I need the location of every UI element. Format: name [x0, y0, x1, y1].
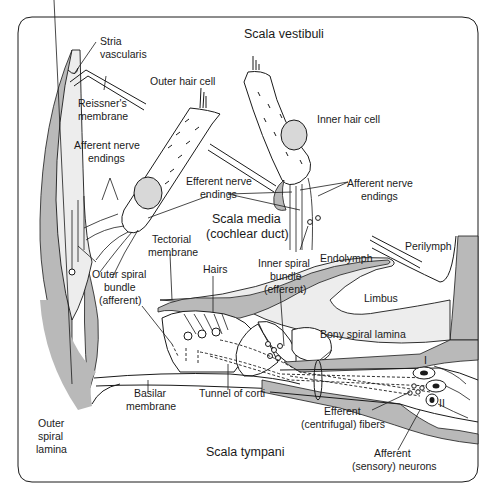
label-scala-media-1: Scala media	[212, 212, 281, 226]
afferent-left-pointer-1	[102, 178, 110, 200]
label-hairs: Hairs	[203, 263, 228, 275]
label-afferent-left-1: Afferent nerve	[74, 139, 140, 151]
basilar-lower-edge	[92, 384, 120, 404]
cochlea-diagram: Scala vestibuli Stria vascularis Reissne…	[0, 0, 491, 495]
label-perilymph: Perilymph	[405, 240, 452, 252]
label-scala-tympani: Scala tympani	[206, 445, 285, 459]
reissner-pointer	[104, 76, 106, 90]
outer-spiral-bundle-dot	[69, 269, 75, 275]
label-bony-spiral-lamina: Bony spiral lamina	[320, 328, 406, 340]
tectorial-pointer	[170, 254, 172, 300]
label-basilar-2: membrane	[126, 400, 176, 412]
label-tectorial-2: membrane	[148, 246, 198, 258]
label-reissner-2: membrane	[78, 110, 128, 122]
label-inner-spiral-2: bundle	[270, 270, 302, 282]
label-scala-vestibuli: Scala vestibuli	[244, 27, 324, 41]
label-afferent-right-1: Afferent nerve	[347, 177, 413, 189]
label-stria-2: vascularis	[100, 48, 147, 60]
label-tunnel-of-corti: Tunnel of corti	[199, 387, 265, 399]
afferent-right-pointers	[300, 182, 348, 196]
label-outer-hair-cell: Outer hair cell	[150, 75, 215, 87]
label-afferent-right-2: endings	[361, 190, 398, 202]
label-efferent-center-2: endings	[200, 188, 237, 200]
label-outer-spiral-1: Outer spiral	[92, 268, 146, 280]
label-outer-spiral-2: bundle	[104, 281, 136, 293]
label-afferent-left-2: endings	[88, 152, 125, 164]
label-neuron-type-1: I	[424, 354, 427, 366]
label-limbus: Limbus	[364, 292, 398, 304]
bony-spiral-lamina-lower	[262, 380, 478, 444]
label-efferent-center-1: Efferent nerve	[186, 175, 252, 187]
label-endolymph: Endolymph	[320, 252, 373, 264]
label-inner-spiral-1: Inner spiral	[258, 257, 310, 269]
afferent-left-pointer-2	[110, 178, 118, 200]
inner-hair-cell-nerve-fibers	[290, 178, 313, 252]
label-outer-spiral-3: (afferent)	[99, 294, 141, 306]
label-scala-media-2: (cochlear duct)	[206, 227, 289, 241]
label-afferent-neurons-1: Afferent	[374, 447, 411, 459]
label-inner-spiral-3: (efferent)	[264, 283, 306, 295]
label-inner-hair-cell: Inner hair cell	[317, 113, 380, 125]
inner-hair-cell	[244, 56, 311, 185]
inner-spiral-bundle-dot-2	[316, 216, 321, 221]
label-neuron-type-2: II	[439, 397, 445, 409]
inner-spiral-dot-pointer	[300, 226, 308, 250]
label-efferent-fibers-2: (centrifugal) fibers	[301, 418, 385, 430]
label-tectorial-1: Tectorial	[152, 233, 191, 245]
label-efferent-fibers-1: Efferent	[324, 405, 361, 417]
inner-spiral-bundle-dot-1	[308, 220, 313, 225]
label-outer-lamina-3: lamina	[36, 443, 67, 455]
label-reissner-1: Reissner's	[78, 97, 127, 109]
label-afferent-neurons-2: (sensory) neurons	[352, 460, 437, 472]
outer-hair-cell	[122, 88, 220, 233]
label-basilar-1: Basilar	[134, 387, 167, 399]
label-outer-lamina-2: spiral	[38, 430, 63, 442]
label-stria-1: Stria	[100, 35, 122, 47]
label-outer-lamina-1: Outer	[38, 417, 65, 429]
